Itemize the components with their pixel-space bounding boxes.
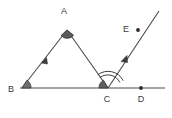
angle-mark-ace-double (98, 71, 124, 82)
angle-mark-a (61, 30, 74, 38)
label-d: D (138, 94, 145, 104)
point-d-marker (139, 86, 143, 90)
label-c: C (104, 94, 111, 104)
geometry-canvas: A B C D E (0, 0, 172, 118)
angle-mark-bca (99, 80, 108, 88)
label-a: A (61, 6, 67, 16)
geometry-diagram: A B C D E (0, 0, 172, 118)
label-e: E (123, 24, 129, 34)
segment-ba (22, 30, 67, 88)
point-e-marker (136, 28, 140, 32)
ray-ce (108, 11, 159, 88)
angle-mark-b (22, 80, 31, 88)
label-b: B (8, 84, 14, 94)
segment-ac (67, 30, 108, 88)
parallel-arrow-marker-ce (121, 56, 128, 63)
